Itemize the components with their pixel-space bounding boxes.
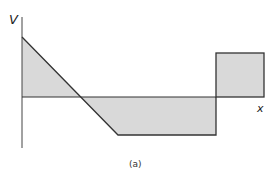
shear-force-diagram: V x (a) [0, 0, 280, 188]
figure-caption: (a) [129, 159, 142, 169]
x-axis-label: x [256, 102, 264, 115]
v-axis-label: V [9, 12, 19, 27]
negative-trapezoid-region [81, 97, 216, 135]
positive-rectangle-region [216, 53, 264, 97]
